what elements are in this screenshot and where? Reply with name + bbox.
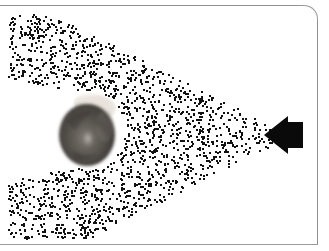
- head-rim-light: [96, 110, 114, 142]
- listener-head: [55, 92, 123, 168]
- speaker-cone-icon: [264, 116, 288, 154]
- loudspeaker-emitter: [263, 116, 304, 154]
- figure-root: Directional acoustic beam incident on a …: [0, 0, 329, 251]
- speaker-body-icon: [288, 122, 303, 148]
